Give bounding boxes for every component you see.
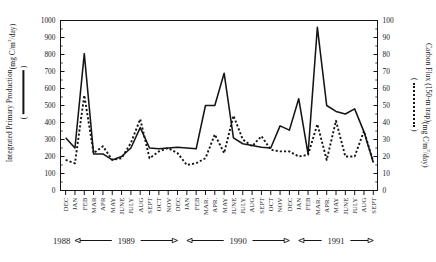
year-label: 1991 (327, 236, 344, 246)
x-tick-label: JAN (183, 197, 190, 210)
right-tick-label: 50 (383, 101, 391, 110)
plot-frame (61, 21, 378, 191)
x-tick-label: JULY (239, 197, 246, 213)
left-tick-label: 900 (44, 33, 55, 42)
x-tick-label: AUG (248, 197, 255, 212)
x-tick-label: NOV (165, 197, 172, 212)
right-tick-label: 100 (383, 16, 394, 25)
right-tick-label: 60 (383, 84, 391, 93)
solid-line-icon (23, 71, 25, 115)
right-tick-label: 40 (383, 118, 391, 127)
right-tick-label: 30 (383, 135, 391, 144)
year-range-arrow (187, 238, 192, 242)
right-tick-label: 70 (383, 67, 391, 76)
left-tick-label: 800 (44, 50, 55, 59)
figure-root: Integrated Primary Production (mg C/m2/d… (0, 0, 436, 262)
x-tick-label: JUNE (342, 198, 349, 215)
legend-paren-open-right: ( (411, 78, 418, 81)
year-label: 1989 (118, 236, 135, 246)
year-range-arrow (75, 238, 80, 242)
x-tick-label: MAY (221, 197, 228, 212)
year-range-arrow (284, 238, 289, 242)
x-tick-label: SEPT (258, 198, 265, 214)
x-tick-label: FEB (193, 197, 200, 210)
dotted-line-icon (413, 83, 415, 127)
x-tick-label: MAR (90, 197, 97, 213)
left-tick-label: 600 (44, 84, 55, 93)
left-tick-label: 400 (44, 118, 55, 127)
year-label: 1990 (230, 236, 247, 246)
right-axis-legend-key: ( ) (411, 78, 418, 131)
right-axis-title: Carbon Flux (150-m trap) (mg C/m2/day) (… (409, 40, 432, 170)
x-tick-label: AUG (360, 197, 367, 212)
left-tick-label: 300 (44, 135, 55, 144)
legend-paren-close-left: ) (20, 66, 27, 69)
right-axis-title-line1: Carbon Flux (150-m trap) (420, 43, 432, 122)
left-tick-label: 1000 (41, 16, 56, 25)
right-tick-label: 0 (383, 186, 387, 195)
x-tick-label: DEC (174, 197, 181, 211)
year-range-arrow (172, 238, 177, 242)
year-label: 1988 (53, 236, 70, 246)
x-tick-label: JUNE (230, 198, 237, 215)
x-axis-ticks (66, 191, 374, 196)
x-tick-label: MAR. (202, 197, 209, 215)
left-tick-label: 0 (52, 186, 56, 195)
left-tick-label: 200 (44, 152, 55, 161)
year-band-layer: 1988198919901991 (53, 236, 373, 246)
chart-canvas: 01002003004005006007008009001000 0102030… (0, 0, 436, 262)
right-tick-label: 90 (383, 33, 391, 42)
x-axis-tick-labels: DECJANFEBMARAPRMAYJUNEJULYAUGSEPTOCTNOVD… (62, 197, 377, 215)
left-axis-legend-key: ( ) (20, 66, 27, 119)
x-tick-label: MAY (109, 197, 116, 212)
right-tick-label: 10 (383, 169, 391, 178)
x-tick-label: NOV (276, 197, 283, 212)
right-tick-label: 80 (383, 50, 391, 59)
x-tick-label: OCT (155, 198, 162, 212)
x-tick-label: JAN (71, 197, 78, 210)
x-tick-label: AUG (137, 197, 144, 212)
x-tick-label: FEB (81, 197, 88, 210)
x-tick-label: DEC (286, 197, 293, 211)
x-tick-label: SEPT (146, 198, 153, 214)
x-tick-label: FEB (304, 197, 311, 210)
legend-paren-close-right: ) (411, 129, 418, 132)
x-tick-label: DEC (62, 197, 69, 211)
right-tick-label: 20 (383, 152, 391, 161)
x-tick-label: JAN (295, 197, 302, 210)
x-tick-label: MAY (332, 197, 339, 212)
x-tick-label: APR (99, 197, 106, 211)
year-range-arrow (299, 238, 304, 242)
right-axis-title-text: Carbon Flux (150-m trap) (mg C/m2/day) (420, 43, 432, 167)
x-tick-label: OCT (267, 198, 274, 212)
x-tick-label: SEPT (370, 198, 377, 214)
left-axis-title-line2: (mg C/m2/day) (6, 24, 18, 69)
x-tick-label: JUNE (118, 198, 125, 215)
left-axis-title-line1: Integrated Primary Production (6, 69, 18, 162)
legend-paren-open-left: ( (20, 117, 27, 120)
left-axis-title-text: Integrated Primary Production (mg C/m2/d… (6, 24, 18, 162)
year-range-arrow (368, 238, 373, 242)
x-tick-label: APR. (323, 197, 330, 212)
left-axis-title: Integrated Primary Production (mg C/m2/d… (6, 18, 29, 168)
left-tick-label: 700 (44, 67, 55, 76)
left-tick-label: 500 (44, 101, 55, 110)
x-tick-label: JULY (351, 197, 358, 213)
left-tick-label: 100 (44, 169, 55, 178)
x-tick-label: MAR. (314, 197, 321, 215)
x-tick-label: APR. (211, 197, 218, 212)
x-tick-label: JULY (127, 197, 134, 213)
right-axis-title-line2: (mg C/m2/day) (420, 122, 432, 167)
